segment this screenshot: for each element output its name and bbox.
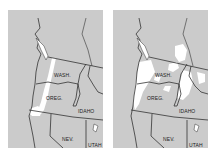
label-utah: UTAH [189,142,203,148]
label-idaho: IDAHO [78,108,94,114]
map-left: WASH. OREG. IDAHO NEV. UTAH [8,10,103,148]
label-nevada: NEV. [163,136,175,142]
label-utah: UTAH [88,142,102,148]
map-left-graphic [8,10,103,148]
label-nevada: NEV. [62,136,74,142]
map-right: WASH. OREG. IDAHO NEV. UTAH [113,10,208,148]
label-idaho: IDAHO [179,108,195,114]
label-washington: WASH. [155,72,172,78]
label-oregon: OREG. [147,95,164,101]
label-washington: WASH. [54,72,71,78]
map-right-graphic [113,10,208,148]
label-oregon: OREG. [46,95,63,101]
